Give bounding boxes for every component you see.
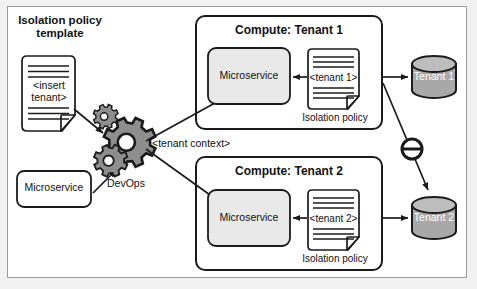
compute-tenant-1-title: Compute: Tenant 1 [196,24,382,37]
arrow-tenant1-to-db2-blocked [383,83,428,190]
compute-tenant-2-title: Compute: Tenant 2 [196,165,382,178]
tenant-2-policy-caption: Isolation policy [296,253,374,264]
gear-small-top [93,104,118,128]
template-title: Isolation policy template [12,14,108,40]
tenant-1-policy-caption: Isolation policy [296,112,374,123]
tenant-context-label: <tenant context> [152,138,230,150]
database-tenant-2-label: Tenant 2 [412,212,456,224]
tenant-1-microservice-label: Microservice [208,70,290,82]
database-tenant-1-label: Tenant 1 [412,71,456,83]
no-access-icon [402,139,422,159]
tenant-2-policy-text: <tenant 2> [308,213,359,224]
template-doc-text: <insert tenant> [24,80,74,104]
tenant-2-microservice-label: Microservice [208,212,290,224]
diagram-canvas [0,0,477,289]
arrow-tenant-context-to-tenant1 [146,98,224,141]
left-microservice-label: Microservice [17,182,91,194]
figure-root: Isolation policy template <insert tenant… [0,0,477,289]
tenant-1-policy-text: <tenant 1> [308,72,359,83]
devops-label: DevOps [98,178,154,190]
